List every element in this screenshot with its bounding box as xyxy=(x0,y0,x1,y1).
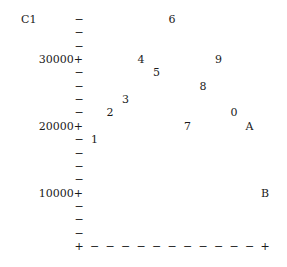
x-minor-tick: − xyxy=(198,241,207,253)
data-point: 3 xyxy=(122,94,129,106)
y-minor-tick: − xyxy=(74,94,83,106)
y-minor-tick: − xyxy=(74,161,83,173)
x-minor-tick: − xyxy=(167,241,176,253)
y-minor-tick: − xyxy=(74,67,83,79)
y-minor-tick: − xyxy=(74,228,83,240)
character-scatter-plot: C1 −−−30000+−−−−20000+−−−−10000+−−− +−−−… xyxy=(0,0,287,267)
data-point: 5 xyxy=(153,67,160,79)
data-point: 4 xyxy=(138,54,145,66)
x-axis-corner-mark: + xyxy=(74,241,83,253)
y-minor-tick: − xyxy=(74,174,83,186)
y-minor-tick: − xyxy=(74,214,83,226)
data-point: 6 xyxy=(169,14,176,26)
x-minor-tick: − xyxy=(121,241,130,253)
x-minor-tick: − xyxy=(90,241,99,253)
x-axis-corner-mark: + xyxy=(260,241,269,253)
data-point: A xyxy=(246,121,254,133)
x-minor-tick: − xyxy=(229,241,238,253)
x-minor-tick: − xyxy=(214,241,223,253)
y-minor-tick: − xyxy=(74,148,83,160)
y-minor-tick: − xyxy=(74,14,83,26)
x-minor-tick: − xyxy=(183,241,192,253)
data-point: 9 xyxy=(215,54,222,66)
y-minor-tick: − xyxy=(74,107,83,119)
data-point: 8 xyxy=(200,81,207,93)
data-point: 0 xyxy=(231,107,238,119)
x-minor-tick: − xyxy=(136,241,145,253)
y-minor-tick: − xyxy=(74,27,83,39)
y-minor-tick: − xyxy=(74,134,83,146)
y-tick-label: 10000+ xyxy=(23,188,83,200)
x-minor-tick: − xyxy=(105,241,114,253)
x-minor-tick: − xyxy=(152,241,161,253)
y-minor-tick: − xyxy=(74,81,83,93)
data-point: 1 xyxy=(91,134,98,146)
data-point: 7 xyxy=(184,121,191,133)
data-point: B xyxy=(261,188,269,200)
y-tick-label: 20000+ xyxy=(23,121,83,133)
y-minor-tick: − xyxy=(74,201,83,213)
y-tick-label: 30000+ xyxy=(23,54,83,66)
y-axis-label: C1 xyxy=(21,14,36,26)
y-minor-tick: − xyxy=(74,41,83,53)
data-point: 2 xyxy=(107,107,114,119)
x-minor-tick: − xyxy=(245,241,254,253)
